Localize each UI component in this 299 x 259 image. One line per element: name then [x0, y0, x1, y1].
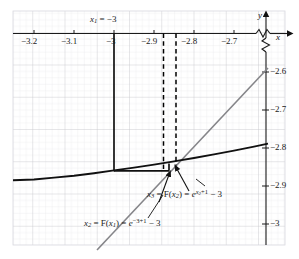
plot-grid — [13, 11, 285, 245]
y-axis-name: y — [258, 10, 262, 20]
x3-tail: − 3 — [208, 189, 222, 199]
annotation-x1: x1 = −3 — [90, 15, 116, 25]
cobweb-figure: −3.2 −3.1 −3 −2.9 −2.8 −2.7 −2.6 −2.7 −2… — [0, 0, 299, 259]
y-tick-label-4: −3 — [270, 218, 280, 228]
x-tick-label-1: −3.1 — [61, 36, 77, 46]
x2-tail: − 3 — [147, 218, 161, 228]
x3-exponent: x2+1 — [196, 188, 208, 195]
x3-exp-plus: +1 — [201, 188, 208, 195]
x2-eq2: ) = — [116, 218, 129, 228]
y-tick-label-2: −2.8 — [270, 142, 286, 152]
y-tick-label-0: −2.6 — [270, 66, 286, 76]
x-tick-label-3: −2.9 — [141, 36, 157, 46]
x1-eq: = — [97, 14, 107, 24]
annotation-x2: x2 = F(x1) = e−3+1 − 3 — [84, 218, 161, 229]
x3-eq1: = F( — [154, 189, 172, 199]
y-tick-label-1: −2.7 — [270, 104, 286, 114]
x2-exponent: −3+1 — [133, 217, 147, 224]
x-tick-label-4: −2.8 — [181, 36, 197, 46]
x-tick-label-0: −3.2 — [21, 36, 37, 46]
x2-eq1: = F( — [91, 218, 109, 228]
y-tick-label-3: −2.9 — [270, 180, 286, 190]
x1-value: −3 — [107, 14, 117, 24]
x3-eq2: ) = — [179, 189, 192, 199]
x-tick-label-2: −3 — [106, 36, 116, 46]
x-tick-label-5: −2.7 — [221, 36, 237, 46]
annotation-x3: x3 = F(x2) = ex2+1 − 3 — [147, 189, 222, 200]
x-axis-name: x — [276, 32, 280, 42]
